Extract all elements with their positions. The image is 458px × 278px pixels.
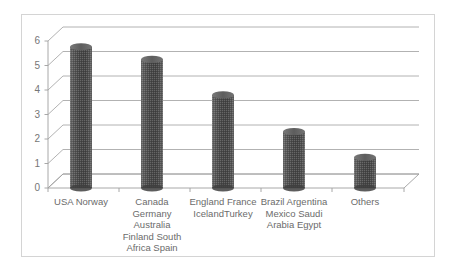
chart-bars — [70, 43, 376, 191]
x-axis-label-others: Others — [320, 196, 410, 208]
bar-england-france-iceland-turkey — [212, 91, 234, 191]
chart-container: 6 5 4 3 2 1 0 USA Norway Canada Germany … — [0, 0, 458, 278]
bar-others — [354, 154, 376, 192]
y-axis-tick-2: 2 — [22, 134, 40, 144]
y-axis-tick-3: 3 — [22, 110, 40, 120]
y-axis-tick-5: 5 — [22, 61, 40, 71]
chart-gridlines — [63, 27, 419, 174]
chart-depth-connectors — [48, 27, 63, 188]
bar-usa-norway — [70, 43, 92, 191]
y-axis-tick-1: 1 — [22, 159, 40, 169]
bar-brazil-argentina-mexico-saudi-arabia-egypt — [283, 128, 305, 192]
chart-y-axis — [45, 41, 49, 188]
chart-plot-svg — [0, 0, 458, 278]
y-axis-tick-6: 6 — [22, 36, 40, 46]
y-axis-tick-0: 0 — [22, 183, 40, 193]
y-axis-tick-4: 4 — [22, 85, 40, 95]
bar-canada-germany-australia-finland-south-africa-spain — [141, 56, 163, 192]
